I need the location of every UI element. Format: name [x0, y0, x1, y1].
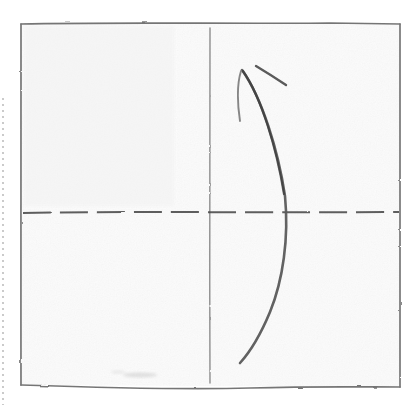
- paper-smudge: [123, 373, 157, 378]
- practice-sheet: [0, 0, 410, 405]
- practice-grid-svg: [0, 0, 410, 405]
- paper-shading-upper-left: [24, 26, 174, 206]
- frame-top-edge: [21, 23, 400, 24]
- horizontal-center-line: [23, 212, 399, 213]
- paper-smudge-secondary: [111, 370, 125, 373]
- vertical-center-line: [210, 28, 211, 383]
- scanned-page: Calligraphy practice grid with single br…: [0, 0, 410, 405]
